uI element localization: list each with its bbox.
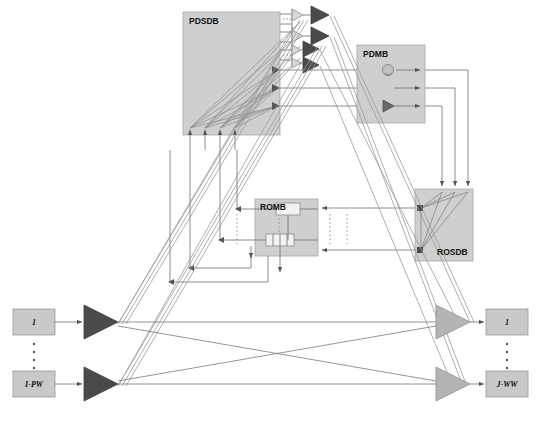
input-ellipsis-dots [33, 343, 35, 369]
romb-module-bottom [266, 234, 294, 246]
block-label-romb: ROMB [260, 202, 286, 212]
block-label-rosdb: ROSDB [437, 247, 468, 257]
rosdb-to-romb [322, 208, 396, 250]
diagram-svg: PDSDB PDMB ROMB ROSDB 1 I-PW 1 J-WW [0, 0, 538, 430]
input-port-label-2: I-PW [24, 380, 44, 389]
output-feed-lines [470, 322, 484, 384]
bottom-crossbar [118, 322, 436, 384]
top-stage-row-1 [280, 9, 292, 29]
output-amplifier-2 [436, 367, 470, 401]
input-feed-lines [55, 322, 82, 384]
rosdb-left-outputs [396, 208, 415, 250]
amplifier-light-top-1 [292, 9, 303, 21]
input-port-label-1: 1 [32, 318, 36, 327]
output-port-label-2: J-WW [496, 380, 519, 389]
pdmb-right-bus [425, 70, 468, 186]
block-label-pdmb: PDMB [363, 49, 388, 59]
output-port-label-1: 1 [505, 318, 509, 327]
output-ellipsis-dots [506, 343, 508, 369]
block-label-pdsdb: PDSDB [189, 16, 219, 26]
input-amplifier-2 [84, 367, 118, 401]
amplifier-dark-top-2 [311, 27, 329, 45]
diagram-canvas: PDSDB PDMB ROMB ROSDB 1 I-PW 1 J-WW [0, 0, 538, 430]
input-amplifier-1 [84, 305, 118, 339]
pdmb-loop-icon [383, 65, 394, 76]
amplifier-dark-top-1 [311, 6, 329, 24]
